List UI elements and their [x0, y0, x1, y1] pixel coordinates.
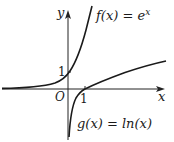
function-graph: y x O 1 1 f(x) = ex g(x) = ln(x) — [0, 0, 174, 142]
origin-label: O — [55, 90, 65, 104]
ln-curve-label: g(x) = ln(x) — [77, 116, 152, 131]
x-tick-label: 1 — [80, 92, 88, 106]
y-tick-label: 1 — [58, 65, 66, 79]
exp-curve-label: f(x) = ex — [95, 7, 150, 23]
x-axis-label: x — [158, 89, 166, 104]
y-axis-label: y — [56, 5, 65, 20]
exp-curve — [2, 6, 92, 88]
